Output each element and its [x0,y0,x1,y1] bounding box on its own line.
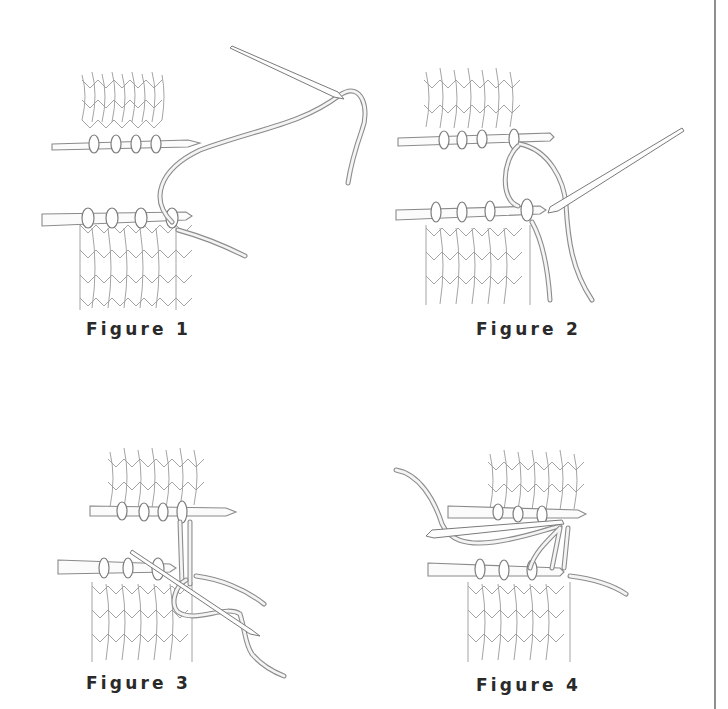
lower-fabric [426,225,530,305]
upper-fabric [424,68,520,128]
upper-fabric [82,72,164,128]
lower-fabric [468,582,570,662]
figure-caption: Figure 4 [476,675,581,695]
figure-caption: Figure 3 [86,673,191,693]
figure-caption: Figure 1 [86,319,191,339]
upper-fabric [108,448,204,508]
figure-1: Figure 1 [0,0,364,354]
figure-4-drawing [364,354,714,709]
figure-3-drawing [0,354,364,709]
figure-2-drawing [364,0,714,354]
illustration-page: Figure 1 [0,0,728,709]
figure-caption: Figure 2 [476,319,581,339]
figure-2: Figure 2 [364,0,714,354]
upper-fabric [488,450,584,510]
page-border-rule [714,0,716,709]
figure-4: Figure 4 [364,354,714,709]
figure-1-drawing [0,0,364,354]
lower-fabric [80,225,192,310]
figure-3: Figure 3 [0,354,364,709]
